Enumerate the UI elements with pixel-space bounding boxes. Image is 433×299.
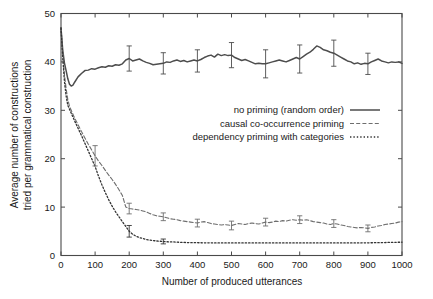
x-tick-label: 200: [121, 259, 137, 270]
y-tick-label: 20: [44, 153, 55, 164]
x-tick-label: 400: [189, 259, 205, 270]
y-axis-title-line1: Average number of constructions: [9, 62, 20, 209]
y-tick-label: 40: [44, 56, 55, 67]
x-tick-label: 0: [58, 259, 63, 270]
y-tick-label: 0: [50, 250, 55, 261]
x-tick-label: 1000: [391, 259, 412, 270]
y-tick-label: 50: [44, 8, 55, 19]
x-tick-label: 500: [224, 259, 240, 270]
x-tick-label: 800: [326, 259, 342, 270]
figure-container: 01002003004005006007008009001000 0102030…: [0, 0, 433, 299]
y-tick-label: 10: [44, 202, 55, 213]
y-tick-label: 30: [44, 105, 55, 116]
x-tick-label: 100: [87, 259, 103, 270]
x-tick-label: 900: [360, 259, 376, 270]
legend-label-2: dependency priming with categories: [192, 131, 344, 142]
x-axis-title: Number of produced utterances: [162, 276, 303, 287]
x-tick-label: 600: [258, 259, 274, 270]
legend-label-1: causal co-occurrence priming: [220, 118, 344, 129]
line-chart: 01002003004005006007008009001000 0102030…: [0, 0, 433, 299]
x-tick-label: 700: [292, 259, 308, 270]
y-axis-title-line2: tried per grammatical construction: [22, 60, 33, 211]
legend-label-0: no priming (random order): [234, 104, 344, 115]
x-tick-label: 300: [155, 259, 171, 270]
